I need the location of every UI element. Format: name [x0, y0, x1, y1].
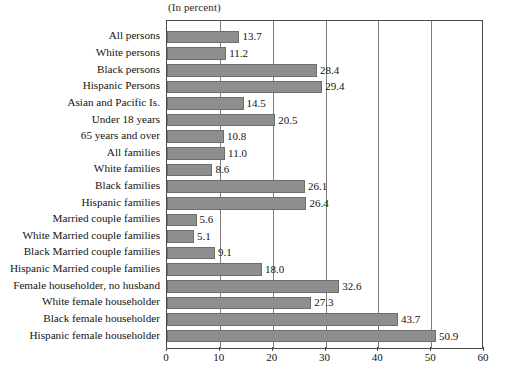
x-tick-label: 40 — [372, 351, 383, 363]
category-label: Black female householder — [43, 310, 160, 327]
bar-value-label: 29.4 — [325, 79, 344, 93]
bar-value-label: 27.3 — [314, 295, 333, 309]
chart-title: (In percent) — [168, 1, 221, 13]
bar-value-label: 5.1 — [197, 229, 211, 243]
category-label: Hispanic Persons — [83, 77, 160, 94]
category-label: Under 18 years — [92, 111, 160, 128]
bar[interactable] — [167, 263, 262, 276]
category-label: White female householder — [42, 293, 160, 310]
category-label: Female householder, no husband — [13, 277, 160, 294]
bar-value-label: 43.7 — [401, 312, 420, 326]
bar-value-label: 13.7 — [242, 29, 261, 43]
bar-row: 10.8 — [167, 128, 482, 145]
bar-row: 5.6 — [167, 211, 482, 228]
bar-row: 8.6 — [167, 161, 482, 178]
category-label: All families — [107, 144, 160, 161]
category-label: Hispanic Married couple families — [10, 260, 160, 277]
bar[interactable] — [167, 197, 306, 210]
bar-row: 13.7 — [167, 28, 482, 45]
category-label: Black Married couple families — [24, 243, 160, 260]
bar-value-label: 14.5 — [247, 96, 266, 110]
x-tick-label: 10 — [213, 351, 224, 363]
bar[interactable] — [167, 214, 197, 227]
x-tick-label: 20 — [266, 351, 277, 363]
bar-row: 11.0 — [167, 145, 482, 162]
bar-row: 32.6 — [167, 278, 482, 295]
category-label: Hispanic female householder — [30, 327, 160, 344]
x-axis: 0102030405060 — [166, 351, 483, 373]
category-label: White families — [94, 160, 160, 177]
category-labels: All personsWhite personsBlack personsHis… — [0, 20, 163, 349]
bar[interactable] — [167, 230, 194, 243]
bar[interactable] — [167, 31, 239, 44]
bar-row: 18.0 — [167, 261, 482, 278]
bars-container: 13.711.228.429.414.520.510.811.08.626.12… — [167, 21, 482, 348]
bar-row: 28.4 — [167, 62, 482, 79]
x-tick-label: 50 — [425, 351, 436, 363]
bar-row: 43.7 — [167, 311, 482, 328]
bar[interactable] — [167, 81, 322, 94]
bar[interactable] — [167, 313, 398, 326]
bar[interactable] — [167, 130, 224, 143]
bar-value-label: 26.4 — [309, 196, 328, 210]
bar-value-label: 28.4 — [320, 63, 339, 77]
bar-row: 26.4 — [167, 195, 482, 212]
category-label: Married couple families — [53, 210, 160, 227]
bar-row: 27.3 — [167, 294, 482, 311]
bar-value-label: 10.8 — [227, 129, 246, 143]
bar-value-label: 18.0 — [265, 262, 284, 276]
bar[interactable] — [167, 147, 225, 160]
bar-value-label: 5.6 — [200, 212, 214, 226]
bar[interactable] — [167, 97, 244, 110]
bar-chart: (In percent) All personsWhite personsBla… — [0, 0, 505, 378]
bar-row: 20.5 — [167, 112, 482, 129]
bar[interactable] — [167, 47, 226, 60]
bar-value-label: 11.2 — [229, 46, 248, 60]
bar-row: 14.5 — [167, 95, 482, 112]
bar-value-label: 8.6 — [215, 162, 229, 176]
bar[interactable] — [167, 247, 215, 260]
bar[interactable] — [167, 330, 436, 343]
bar-row: 9.1 — [167, 244, 482, 261]
bar-value-label: 50.9 — [439, 329, 458, 343]
category-label: All persons — [109, 27, 160, 44]
bar-value-label: 20.5 — [278, 113, 297, 127]
category-label: White persons — [96, 44, 160, 61]
bar[interactable] — [167, 280, 339, 293]
bar-value-label: 26.1 — [308, 179, 327, 193]
bar-value-label: 32.6 — [342, 279, 361, 293]
bar[interactable] — [167, 164, 212, 177]
category-label: Hispanic families — [81, 194, 160, 211]
category-label: Black families — [95, 177, 160, 194]
category-label: 65 years and over — [81, 127, 160, 144]
x-tick-label: 60 — [478, 351, 489, 363]
bar[interactable] — [167, 114, 275, 127]
bar-row: 26.1 — [167, 178, 482, 195]
x-tick-label: 30 — [319, 351, 330, 363]
category-label: Asian and Pacific Is. — [67, 94, 160, 111]
plot-area: 13.711.228.429.414.520.510.811.08.626.12… — [166, 20, 483, 349]
category-label: White Married couple families — [22, 227, 160, 244]
bar-row: 29.4 — [167, 78, 482, 95]
bar-row: 50.9 — [167, 328, 482, 345]
x-tick-label: 0 — [163, 351, 169, 363]
bar-value-label: 11.0 — [228, 146, 247, 160]
bar-value-label: 9.1 — [218, 245, 232, 259]
bar[interactable] — [167, 64, 317, 77]
category-label: Black persons — [97, 61, 160, 78]
bar-row: 11.2 — [167, 45, 482, 62]
bar[interactable] — [167, 297, 311, 310]
bar[interactable] — [167, 180, 305, 193]
bar-row: 5.1 — [167, 228, 482, 245]
